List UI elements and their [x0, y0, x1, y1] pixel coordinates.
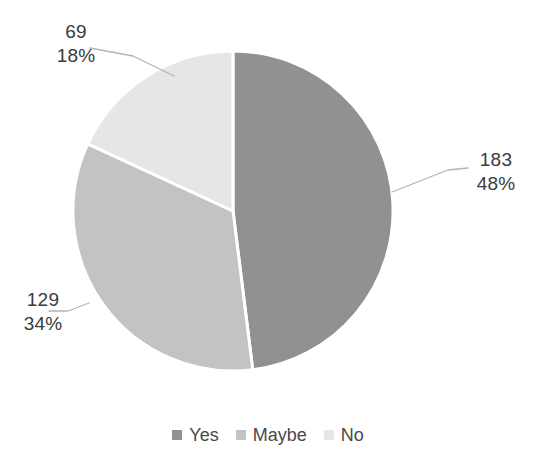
legend-label-no: No: [341, 425, 364, 445]
data-label-maybe-percent: 34%: [10, 312, 76, 336]
data-label-yes-value: 183: [465, 148, 527, 172]
legend-swatch-yes-icon: [172, 430, 182, 440]
legend-label-maybe: Maybe: [253, 425, 307, 445]
data-label-no: 69 18%: [46, 20, 106, 68]
data-label-yes-percent: 48%: [465, 172, 527, 196]
legend-item-no[interactable]: No: [324, 425, 364, 445]
pie-slice-yes[interactable]: [233, 51, 393, 370]
chart-legend: Yes Maybe No: [0, 425, 536, 445]
legend-item-maybe[interactable]: Maybe: [236, 425, 307, 445]
pie-chart-canvas: [0, 0, 536, 476]
data-label-no-value: 69: [46, 20, 106, 44]
data-label-yes: 183 48%: [465, 148, 527, 196]
legend-swatch-no-icon: [324, 430, 334, 440]
leader-line-yes: [392, 168, 468, 192]
legend-swatch-maybe-icon: [236, 430, 246, 440]
legend-label-yes: Yes: [189, 425, 218, 445]
pie-slice-group: [73, 51, 393, 371]
pie-chart-figure: 69 18% 183 48% 129 34% Yes Maybe No: [0, 0, 536, 476]
legend-item-yes[interactable]: Yes: [172, 425, 218, 445]
data-label-maybe-value: 129: [10, 288, 76, 312]
data-label-maybe: 129 34%: [10, 288, 76, 336]
data-label-no-percent: 18%: [46, 44, 106, 68]
